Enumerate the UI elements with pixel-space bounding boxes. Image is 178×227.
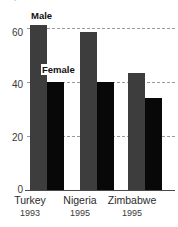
series-label-male: Male: [30, 10, 53, 21]
chart-title: percent: [14, 0, 44, 1]
x-axis-category-zimbabwe: Zimbabwe 1995: [104, 194, 160, 219]
category-label-turkey: Turkey: [2, 194, 58, 207]
y-axis-tick-40: 40: [2, 80, 23, 90]
category-label-zimbabwe: Zimbabwe: [104, 194, 160, 207]
bar-nigeria-male: [80, 32, 97, 190]
bar-zimbabwe-female: [145, 98, 162, 190]
bar-nigeria-female: [97, 82, 114, 190]
plot-area: [27, 12, 175, 190]
category-label-nigeria: Nigeria: [52, 194, 108, 207]
bar-chart: percent 60 40 20 0 Male Female Turkey 19…: [0, 0, 178, 227]
x-axis-category-nigeria: Nigeria 1995: [52, 194, 108, 219]
y-axis-tick-60: 60: [2, 28, 23, 38]
category-year-turkey: 1993: [2, 207, 58, 219]
gridline-60: [27, 28, 175, 29]
x-axis-category-turkey: Turkey 1993: [2, 194, 58, 219]
category-year-zimbabwe: 1995: [104, 207, 160, 219]
bar-turkey-male: [30, 25, 47, 190]
series-label-female: Female: [41, 64, 76, 75]
bar-zimbabwe-male: [128, 73, 145, 190]
y-axis-tick-20: 20: [2, 133, 23, 143]
x-axis-line: [25, 190, 175, 191]
category-year-nigeria: 1995: [52, 207, 108, 219]
bar-turkey-female: [47, 82, 64, 190]
